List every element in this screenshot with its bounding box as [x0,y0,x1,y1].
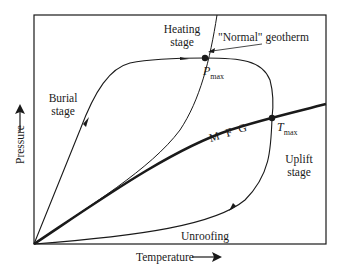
unroofing-label: Unroofing [181,230,229,243]
burial-stage-label-2: stage [51,105,75,118]
normal-geotherm-curve [34,15,217,244]
x-axis-label: Temperature [136,251,194,264]
pmax-label: Pmax [202,64,224,81]
heating-stage-label-2: stage [170,36,194,49]
geotherm-leader-line [212,44,262,51]
pt-path-curve [34,58,273,244]
tmax-label: Tmax [277,120,297,137]
uplift-stage-label-2: stage [287,166,311,179]
heating-stage-label-1: Heating [164,23,201,36]
geotherm-label: "Normal" geotherm [218,31,309,44]
pt-diagram: Heating stage "Normal" geotherm Pmax Tma… [0,0,341,274]
pmax-point [202,55,208,61]
burial-direction-arrow [83,117,89,127]
tmax-label-sub: max [284,128,298,137]
geotherm-leader-arrowhead [208,48,215,53]
mfg-label: M F G [208,120,250,143]
burial-stage-label-1: Burial [49,92,78,104]
tmax-point [269,115,275,121]
uplift-stage-label-1: Uplift [285,153,313,166]
pmax-label-sub: max [210,72,224,81]
